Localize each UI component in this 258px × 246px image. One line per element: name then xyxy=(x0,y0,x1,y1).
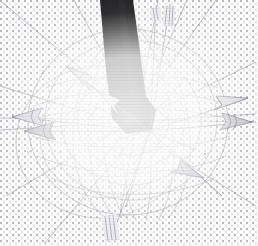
annotation-label-v: v xyxy=(27,149,30,155)
annotation-label-2: 2 xyxy=(41,69,44,75)
vector-sphere-diagram xyxy=(0,0,258,246)
figure-container: 2 v xyxy=(0,0,258,246)
arrow-downright xyxy=(150,131,222,196)
